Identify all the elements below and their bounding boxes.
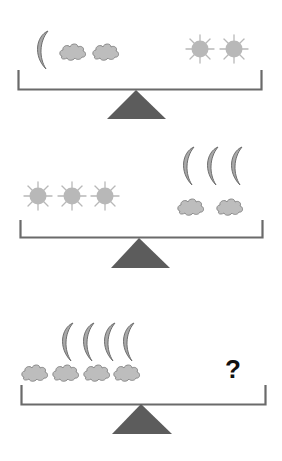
cloud-icon [22, 365, 48, 381]
scale-2-fulcrum [111, 238, 170, 268]
scale-2-right-pan [178, 147, 243, 215]
moon-icon [124, 323, 134, 361]
sun-icon [186, 35, 214, 63]
moon-icon [84, 323, 94, 361]
moon-icon [38, 31, 48, 69]
scale-3-beam [22, 385, 266, 405]
cloud-icon [53, 365, 79, 381]
scale-1-left-pan [38, 31, 119, 69]
moon-icon [63, 323, 73, 361]
cloud-icon [217, 199, 243, 215]
cloud-icon [93, 44, 119, 60]
cloud-icon [114, 365, 140, 381]
scale-2-left-pan [24, 182, 119, 210]
scale-2-beam [21, 220, 263, 238]
scale-3-left-pan [22, 323, 140, 381]
question-mark: ? [225, 356, 241, 382]
sun-icon [220, 35, 248, 63]
sun-icon [91, 182, 119, 210]
scale-3-fulcrum [112, 404, 172, 434]
moon-icon [232, 147, 242, 185]
scale-2 [21, 147, 263, 268]
sun-icon [58, 182, 86, 210]
cloud-icon [84, 365, 110, 381]
sun-icon [24, 182, 52, 210]
scale-1-beam [19, 70, 262, 90]
puzzle-canvas [0, 0, 282, 461]
scale-1 [19, 31, 262, 119]
moon-icon [105, 323, 115, 361]
cloud-icon [60, 44, 86, 60]
moon-icon [208, 147, 218, 185]
cloud-icon [178, 199, 204, 215]
moon-icon [184, 147, 194, 185]
scale-1-fulcrum [107, 90, 166, 119]
scale-1-right-pan [186, 35, 248, 63]
